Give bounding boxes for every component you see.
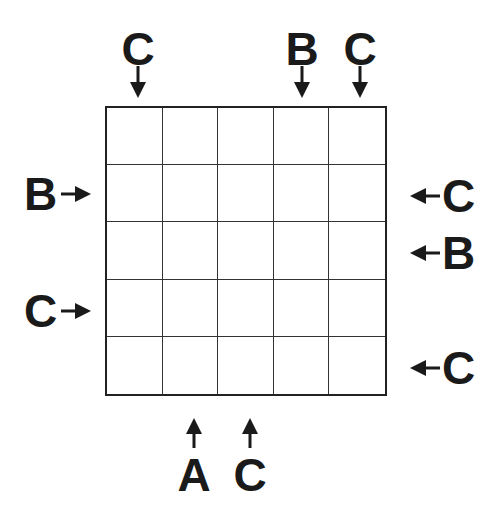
- clue-letter: B: [442, 230, 475, 276]
- arrow-left-icon: [410, 360, 440, 376]
- grid-cell[interactable]: [163, 280, 219, 337]
- clue-top-col-4: B: [282, 26, 322, 72]
- clue-right-row-2: C: [410, 173, 475, 219]
- grid-cell[interactable]: [329, 337, 385, 394]
- clue-left-row-4: C: [24, 288, 91, 334]
- grid-cell[interactable]: [274, 337, 330, 394]
- clue-bottom-col-3: C: [230, 418, 270, 498]
- grid-cell[interactable]: [274, 165, 330, 222]
- arrow-up-icon: [186, 418, 202, 448]
- grid-cell[interactable]: [274, 108, 330, 165]
- arrow-right-icon: [61, 303, 91, 319]
- clue-top-col-1: C: [118, 26, 158, 72]
- clue-letter: C: [442, 173, 475, 219]
- puzzle-grid: [105, 106, 387, 396]
- grid-cell[interactable]: [274, 280, 330, 337]
- grid-cell[interactable]: [218, 222, 274, 279]
- grid-cell[interactable]: [218, 165, 274, 222]
- arrow-down-icon: [130, 66, 146, 98]
- grid-cell[interactable]: [163, 108, 219, 165]
- grid-cell[interactable]: [163, 337, 219, 394]
- clue-letter: A: [174, 452, 214, 498]
- arrow-up-icon: [242, 418, 258, 448]
- grid-cell[interactable]: [107, 222, 163, 279]
- grid-cell[interactable]: [218, 337, 274, 394]
- arrow-left-icon: [410, 245, 440, 261]
- clue-left-row-2: B: [24, 171, 91, 217]
- clue-right-row-5: C: [410, 345, 475, 391]
- grid-cell[interactable]: [107, 280, 163, 337]
- grid-cell[interactable]: [329, 222, 385, 279]
- grid-cell[interactable]: [274, 222, 330, 279]
- arrow-down-icon: [294, 66, 310, 98]
- clue-letter: B: [24, 171, 57, 217]
- grid-cell[interactable]: [107, 337, 163, 394]
- grid-cell[interactable]: [329, 108, 385, 165]
- clue-right-row-3: B: [410, 230, 475, 276]
- grid-cell[interactable]: [163, 222, 219, 279]
- grid-cell[interactable]: [329, 165, 385, 222]
- grid-cell[interactable]: [218, 108, 274, 165]
- grid-cell[interactable]: [218, 280, 274, 337]
- grid-cell[interactable]: [107, 165, 163, 222]
- arrow-left-icon: [410, 188, 440, 204]
- clue-letter: C: [442, 345, 475, 391]
- grid-cell[interactable]: [163, 165, 219, 222]
- arrow-right-icon: [61, 186, 91, 202]
- clue-bottom-col-2: A: [174, 418, 214, 498]
- arrow-down-icon: [352, 66, 368, 98]
- grid-cell[interactable]: [107, 108, 163, 165]
- clue-letter: C: [230, 452, 270, 498]
- clue-letter: C: [24, 288, 57, 334]
- clue-top-col-5: C: [340, 26, 380, 72]
- grid-cell[interactable]: [329, 280, 385, 337]
